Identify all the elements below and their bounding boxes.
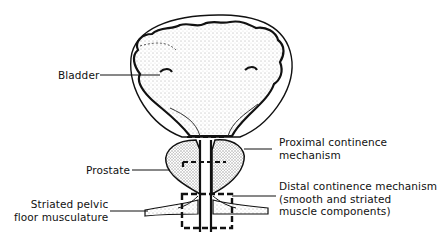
label-bladder: Bladder xyxy=(58,69,99,82)
label-proximal-line2: mechanism xyxy=(279,149,387,162)
label-distal-line3: muscle components) xyxy=(279,205,437,218)
label-distal-continence: Distal continence mechanism (smooth and … xyxy=(279,180,437,218)
prostate-right-lobe xyxy=(212,140,244,194)
label-prostate-line1: Prostate xyxy=(86,164,130,177)
label-striated-line2: floor musculature xyxy=(14,211,108,224)
label-prostate: Prostate xyxy=(86,164,130,177)
label-striated-pelvic-floor: Striated pelvic floor musculature xyxy=(14,198,108,223)
label-proximal-line1: Proximal continence xyxy=(279,136,387,149)
label-bladder-line1: Bladder xyxy=(58,69,99,82)
label-distal-line1: Distal continence mechanism xyxy=(279,180,437,193)
label-proximal-continence: Proximal continence mechanism xyxy=(279,136,387,161)
label-striated-line1: Striated pelvic xyxy=(14,198,108,211)
label-distal-line2: (smooth and striated xyxy=(279,193,437,206)
